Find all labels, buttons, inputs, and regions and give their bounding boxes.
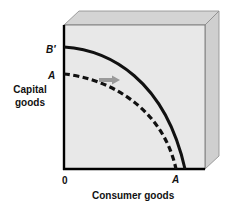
y-axis-label: Capital goods: [10, 83, 50, 109]
new-frontier-label: B′: [46, 44, 56, 55]
box-side-face: [205, 11, 219, 169]
x-intercept-label: A: [172, 174, 179, 185]
original-frontier-label: A: [48, 70, 55, 81]
box-top-face: [64, 11, 219, 25]
origin-label: 0: [62, 175, 68, 186]
box-front-face: [64, 25, 205, 169]
x-axis-label: Consumer goods: [92, 190, 174, 201]
